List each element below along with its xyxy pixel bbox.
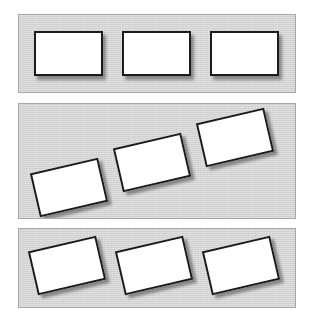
- panel-top-card-2[interactable]: [122, 31, 191, 76]
- panel-middle-card-3[interactable]: [196, 108, 274, 168]
- panel-top: [18, 14, 296, 93]
- panel-bottom-card-3[interactable]: [202, 236, 280, 296]
- panel-bottom-card-2[interactable]: [115, 236, 193, 296]
- panel-bottom: [18, 228, 296, 308]
- panel-top-card-1[interactable]: [34, 31, 103, 76]
- panel-middle: [18, 103, 296, 219]
- panel-bottom-card-1[interactable]: [28, 236, 106, 296]
- panel-top-card-3[interactable]: [210, 31, 279, 76]
- panel-middle-card-1[interactable]: [30, 158, 108, 218]
- figure-canvas: [0, 0, 311, 324]
- panel-middle-card-2[interactable]: [113, 133, 191, 193]
